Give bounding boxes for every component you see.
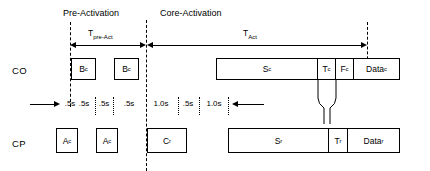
co-block-datac-label: Data <box>366 64 384 74</box>
cp-block-datar-sub: r <box>381 138 383 144</box>
row-label-cp: CP <box>12 138 26 149</box>
co-block-fc-sub: c <box>346 66 349 72</box>
timeline-end-line <box>238 104 264 105</box>
guide-tick-5 <box>228 97 229 115</box>
phase-label-pre-activation: Pre-Activation <box>63 8 119 18</box>
t-pre-act-subscript: pre-Act <box>93 34 112 40</box>
t-act-subscript: Act <box>248 34 257 40</box>
cp-block-ac-1: Ac <box>56 128 78 153</box>
row-label-co: CO <box>12 65 27 76</box>
co-block-bc-2: Bc <box>114 58 139 80</box>
cp-block-ac-1-sub: c <box>68 138 71 144</box>
guide-tick-3 <box>178 97 179 115</box>
timeline-tick-3: .5s <box>96 99 112 108</box>
co-block-tc-sub: c <box>328 66 331 72</box>
co-block-datac-sub: c <box>384 66 387 72</box>
timeline-tick-5: 1.0s <box>150 99 172 108</box>
cp-block-tr-sub: r <box>340 138 342 144</box>
guide-tick-2 <box>113 97 114 115</box>
cp-block-cr-sub: r <box>169 138 171 144</box>
timeline-tick-7: 1.0s <box>203 99 225 108</box>
timeline-end-arrow <box>232 101 238 107</box>
co-block-fc: Fc <box>335 58 354 80</box>
t-act-line <box>149 45 364 46</box>
co-block-bc-1: Bc <box>71 58 96 80</box>
t-pre-act-line <box>73 45 143 46</box>
timing-diagram: Pre-Activation Core-Activation Tpre-Act … <box>0 0 430 171</box>
timeline-start-arrow <box>54 101 60 107</box>
cp-block-ac-2-sub: c <box>108 138 111 144</box>
connector-tc-fc-to-tr <box>310 80 356 124</box>
co-block-sc: Sc <box>216 58 318 80</box>
cp-block-datar-label: Data <box>364 136 382 146</box>
guide-tick-4 <box>199 97 200 115</box>
t-pre-act-label: Tpre-Act <box>88 28 113 40</box>
co-block-sc-sub: c <box>268 66 271 72</box>
t-act-arrow-right <box>361 42 367 48</box>
cp-block-cr: Cr <box>147 128 187 153</box>
co-block-tc: Tc <box>317 58 336 80</box>
t-act-arrow-left <box>147 42 153 48</box>
cp-block-tr: Tr <box>328 128 348 153</box>
cp-block-datar: Datar <box>347 128 400 153</box>
t-act-label: TAct <box>243 28 257 40</box>
cp-block-sr: Sr <box>228 128 329 153</box>
cp-block-sr-sub: r <box>280 138 282 144</box>
t-pre-act-arrow-right <box>140 42 146 48</box>
timeline-start-line <box>30 104 56 105</box>
timeline-tick-6: .5s <box>180 99 196 108</box>
phase-label-core-activation: Core-Activation <box>160 8 222 18</box>
co-block-bc-2-sub: c <box>128 66 131 72</box>
timeline-tick-2: .5s <box>76 99 92 108</box>
t-pre-act-arrow-left <box>70 42 76 48</box>
co-block-bc-1-sub: c <box>85 66 88 72</box>
co-block-datac: Datac <box>353 58 400 80</box>
timeline-tick-4: .5s <box>121 99 137 108</box>
cp-block-ac-2: Ac <box>96 128 118 153</box>
